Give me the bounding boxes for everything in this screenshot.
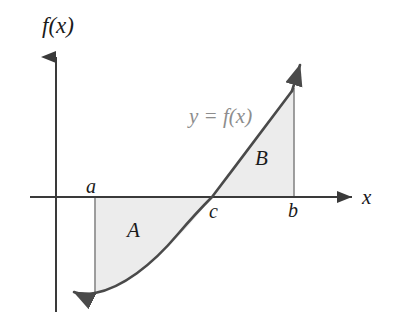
x-tick-label-b: b bbox=[288, 200, 298, 220]
signed-area-figure: f(x) x y = f(x) a c b A B bbox=[0, 0, 405, 322]
curve-equation-label: y = f(x) bbox=[189, 106, 252, 127]
region-a-shading bbox=[95, 197, 212, 293]
function-curve-right-tip bbox=[292, 65, 300, 91]
x-tick-label-a: a bbox=[86, 176, 96, 196]
region-label-a: A bbox=[127, 220, 140, 241]
x-axis-label: x bbox=[362, 187, 371, 208]
x-tick-label-c: c bbox=[209, 201, 218, 221]
region-label-b: B bbox=[255, 148, 268, 169]
figure-canvas bbox=[0, 0, 405, 322]
function-curve-left-tail bbox=[74, 292, 95, 294]
y-axis-label: f(x) bbox=[42, 14, 74, 37]
